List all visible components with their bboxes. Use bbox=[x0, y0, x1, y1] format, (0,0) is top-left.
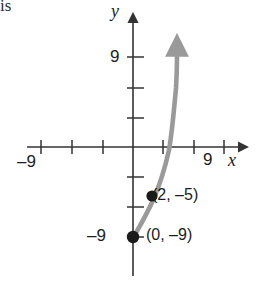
point-0-neg9 bbox=[127, 231, 139, 243]
coordinate-plane-figure bbox=[0, 0, 258, 284]
y-axis-label-neg9: –9 bbox=[87, 226, 106, 246]
y-axis-variable-label: y bbox=[111, 1, 119, 22]
point-label-0-neg9: (0, –9) bbox=[146, 226, 192, 244]
x-axis-variable-label: x bbox=[228, 150, 236, 171]
point-label-2-neg5: (2, –5) bbox=[152, 186, 198, 204]
exponential-curve bbox=[133, 52, 177, 238]
y-axis-label-9: 9 bbox=[110, 47, 119, 67]
x-axis-label-neg9: –9 bbox=[17, 152, 36, 172]
x-axis-label-9: 9 bbox=[203, 150, 212, 170]
